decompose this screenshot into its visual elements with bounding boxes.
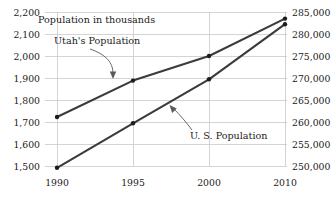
left-tick-label: 1,900 (13, 73, 40, 84)
right-tick-label: 250,000 (292, 161, 331, 172)
right-axis-tick-labels: 285,000 280,000 275,000 270,000 265,000 … (292, 7, 331, 172)
left-tick-label: 2,200 (13, 7, 40, 18)
us-point-1995 (131, 121, 135, 125)
us-point-2000 (207, 77, 211, 81)
right-tick-label: 260,000 (292, 117, 331, 128)
left-tick-label: 1,600 (13, 139, 40, 150)
chart-title: Population in thousands (38, 14, 155, 25)
x-axis-tick-labels: 1990 1995 2000 2010 (45, 177, 297, 188)
us-population-annotation-label: U. S. Population (190, 130, 267, 141)
x-tick-label: 2000 (197, 177, 221, 188)
x-tick-label: 2010 (273, 177, 297, 188)
right-tick-label: 280,000 (292, 29, 331, 40)
chart-canvas: 2,200 2,100 2,000 1,900 1,800 1,700 1,60… (0, 0, 332, 199)
population-line-chart: 2,200 2,100 2,000 1,900 1,800 1,700 1,60… (0, 0, 332, 199)
right-tick-label: 265,000 (292, 95, 331, 106)
right-tick-label: 285,000 (292, 7, 331, 18)
left-tick-label: 2,100 (13, 29, 40, 40)
us-point-2010 (283, 22, 287, 26)
utah-population-annotation-label: Utah's Population (54, 35, 140, 46)
utah-point-2000 (207, 54, 211, 58)
right-tick-label: 270,000 (292, 73, 331, 84)
series-utah-population (55, 16, 287, 119)
utah-point-1990 (55, 115, 59, 119)
utah-point-2010 (283, 16, 287, 20)
right-tick-label: 255,000 (292, 139, 331, 150)
x-tick-label: 1995 (121, 177, 145, 188)
left-tick-label: 2,000 (13, 51, 40, 62)
right-tick-label: 275,000 (292, 51, 331, 62)
us-point-1990 (55, 166, 59, 170)
left-tick-label: 1,800 (13, 95, 40, 106)
left-tick-label: 1,500 (13, 161, 40, 172)
utah-population-annotation-arrow-icon (90, 49, 116, 79)
utah-point-1995 (131, 78, 135, 82)
x-tick-label: 1990 (45, 177, 69, 188)
left-axis-tick-labels: 2,200 2,100 2,000 1,900 1,800 1,700 1,60… (13, 7, 40, 172)
left-tick-label: 1,700 (13, 117, 40, 128)
us-population-annotation-arrow-icon (170, 105, 193, 130)
